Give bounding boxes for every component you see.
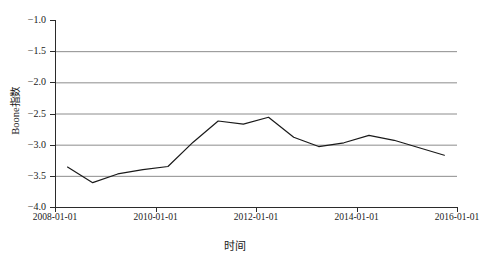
x-tick-label: 2016-01-01 <box>417 212 484 223</box>
series-line-boone <box>68 117 445 182</box>
plot-area <box>55 20 457 207</box>
y-tick-mark <box>50 145 55 146</box>
y-tick-mark <box>50 82 55 83</box>
y-tick-label: −1.5 <box>0 46 46 56</box>
y-tick-label: −4.0 <box>0 202 46 212</box>
x-tick-label: 2010-01-01 <box>116 212 196 223</box>
x-tick-label: 2008-01-01 <box>15 212 95 223</box>
y-axis-title: Boone指数 <box>10 51 22 171</box>
y-tick-label: −3.5 <box>0 171 46 181</box>
y-tick-label: −1.0 <box>0 15 46 25</box>
y-tick-label: −2.0 <box>0 77 46 87</box>
y-tick-mark <box>50 114 55 115</box>
y-tick-mark <box>50 51 55 52</box>
y-tick-label: −2.5 <box>0 109 46 119</box>
x-tick-label: 2014-01-01 <box>317 212 397 223</box>
y-tick-label: −3.0 <box>0 140 46 150</box>
y-tick-mark <box>50 176 55 177</box>
data-line-group <box>55 20 457 208</box>
y-tick-mark <box>50 20 55 21</box>
y-axis-line <box>55 20 56 208</box>
x-axis-title: 时间 <box>0 240 470 253</box>
x-tick-label: 2012-01-01 <box>216 212 296 223</box>
